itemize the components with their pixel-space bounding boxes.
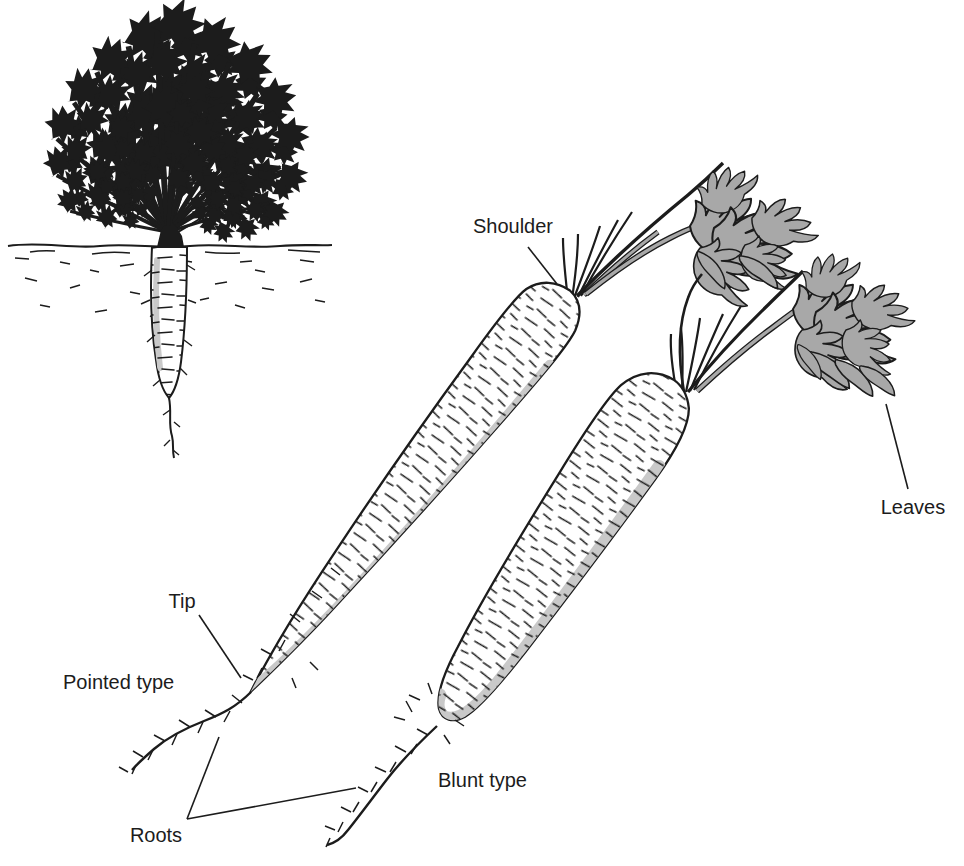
pointed-carrot-root-tail (132, 692, 251, 770)
pointed-carrot-leaves (682, 150, 819, 310)
taproot-tail (169, 398, 174, 458)
leader-line-shoulder (528, 247, 557, 284)
blunt-carrot-root-hairs (325, 729, 428, 847)
label-pointed-type: Pointed type (63, 671, 174, 693)
leader-line-tip (199, 615, 241, 678)
plant-taproot (141, 222, 196, 458)
plant-foliage (29, 0, 324, 266)
pointed-carrot-root-hairs (119, 695, 242, 774)
leader-line-roots-right (187, 788, 356, 819)
blunt-carrot-leaves (784, 238, 915, 400)
whole-plant-illustration (8, 0, 332, 458)
label-blunt-type: Blunt type (438, 769, 527, 791)
blunt-carrot (325, 238, 915, 847)
pointed-carrot-body (221, 267, 594, 711)
diagram-canvas: Shoulder Leaves Tip Pointed type Blunt t… (0, 0, 964, 866)
label-shoulder: Shoulder (473, 215, 553, 237)
blunt-carrot-root-tail (327, 726, 437, 845)
carrot-diagram: Shoulder Leaves Tip Pointed type Blunt t… (0, 0, 964, 866)
label-leaves: Leaves (881, 496, 946, 518)
label-tip: Tip (168, 590, 195, 612)
leader-line-leaves (886, 404, 908, 489)
label-roots: Roots (130, 824, 182, 846)
leader-line-roots-left (187, 737, 219, 819)
